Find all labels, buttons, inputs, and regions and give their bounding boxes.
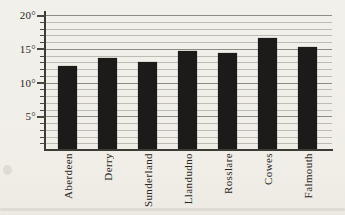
y-axis-minor-tick <box>40 143 45 144</box>
x-axis-label-llandudno: Llandudno <box>181 153 195 204</box>
x-axis-label-cowes: Cowes <box>261 153 275 185</box>
y-axis-minor-tick <box>40 29 45 30</box>
scan-artifact-smudge <box>3 165 12 175</box>
y-axis-label-10: 10° <box>0 76 36 90</box>
x-axis-label-aberdeen: Aberdeen <box>61 153 75 199</box>
y-axis-major-tick <box>37 48 45 50</box>
bar-aberdeen <box>58 66 77 150</box>
y-axis-minor-tick <box>40 89 45 90</box>
minor-gridline <box>46 22 332 23</box>
x-axis-label-rosslare: Rosslare <box>221 153 235 194</box>
bar-chart-figure: 5°10°15°20° AberdeenDerrySunderlandLland… <box>0 0 345 215</box>
y-axis-minor-tick <box>40 110 45 111</box>
y-axis-label-5: 5° <box>0 109 36 123</box>
bar-falmouth <box>298 47 317 150</box>
x-axis-label-sunderland: Sunderland <box>141 153 155 207</box>
minor-gridline <box>46 35 332 36</box>
y-axis-minor-tick <box>40 56 45 57</box>
y-axis-minor-tick <box>40 76 45 77</box>
y-axis-minor-tick <box>40 96 45 97</box>
y-axis-minor-tick <box>40 22 45 23</box>
y-axis-minor-tick <box>40 62 45 63</box>
y-axis-minor-tick <box>40 69 45 70</box>
y-axis-major-tick <box>37 116 45 118</box>
y-axis-label-20: 20° <box>0 8 36 22</box>
y-axis-major-tick <box>37 82 45 84</box>
bar-rosslare <box>218 53 237 150</box>
y-axis-major-tick <box>37 15 45 17</box>
y-axis-minor-tick <box>40 130 45 131</box>
bar-derry <box>98 58 117 150</box>
y-axis-minor-tick <box>40 35 45 36</box>
minor-gridline <box>46 29 332 30</box>
y-axis-minor-tick <box>40 123 45 124</box>
x-axis-label-falmouth: Falmouth <box>301 153 315 198</box>
bar-llandudno <box>178 51 197 150</box>
y-axis-label-15: 15° <box>0 42 36 56</box>
bar-cowes <box>258 38 277 150</box>
y-axis-minor-tick <box>40 137 45 138</box>
y-axis-minor-tick <box>40 103 45 104</box>
x-axis-label-derry: Derry <box>101 153 115 181</box>
bar-sunderland <box>138 62 157 150</box>
minor-gridline <box>46 42 332 43</box>
scan-artifact-line <box>0 208 345 211</box>
y-axis-minor-tick <box>40 42 45 43</box>
x-axis-line <box>44 149 333 151</box>
major-gridline <box>46 15 332 16</box>
major-gridline <box>46 49 332 50</box>
